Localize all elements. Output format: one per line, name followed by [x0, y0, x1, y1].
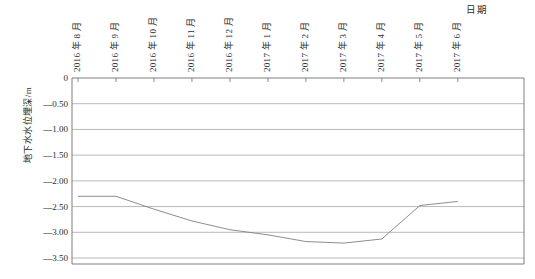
gridlines — [72, 104, 524, 258]
plot-area — [0, 0, 535, 279]
series-polyline — [78, 196, 458, 243]
data-series-line — [78, 196, 458, 243]
x-axis-ticks — [78, 78, 458, 82]
axis-frame — [72, 78, 524, 264]
groundwater-depth-chart: 日期 2016 年 8 月2016 年 9 月2016 年 10 月2016 年… — [0, 0, 535, 279]
